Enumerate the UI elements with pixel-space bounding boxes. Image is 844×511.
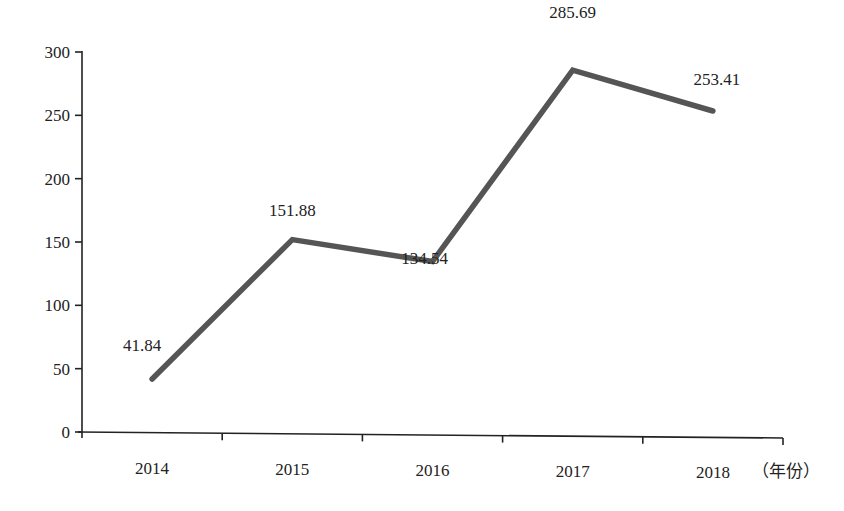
y-tick-label: 150 (45, 233, 71, 252)
data-labels: 41.84151.88134.54285.69253.41 (123, 3, 740, 355)
x-tick-label: 2017 (556, 462, 591, 481)
data-label: 253.41 (694, 70, 741, 89)
line-chart: 050100150200250300 20142015201620172018（… (0, 0, 844, 511)
data-label: 41.84 (123, 336, 162, 355)
y-tick-label: 100 (45, 296, 71, 315)
y-tick-label: 300 (45, 43, 71, 62)
chart-canvas: 050100150200250300 20142015201620172018（… (0, 0, 844, 511)
x-axis-unit-label: （年份） (752, 462, 820, 481)
y-tick-label: 0 (62, 423, 71, 442)
x-axis: 20142015201620172018（年份） (78, 432, 820, 482)
data-label: 285.69 (549, 3, 596, 22)
x-tick-label: 2014 (135, 459, 170, 478)
y-axis: 050100150200250300 (45, 43, 83, 442)
x-tick-label: 2015 (275, 460, 309, 479)
y-tick-label: 200 (45, 170, 71, 189)
data-label: 151.88 (269, 201, 316, 220)
y-tick-label: 50 (53, 360, 70, 379)
series-line (152, 70, 713, 379)
data-label: 134.54 (401, 249, 448, 268)
x-tick-label: 2016 (416, 461, 450, 480)
x-tick-label: 2018 (696, 463, 730, 482)
data-series (152, 70, 713, 379)
y-tick-label: 250 (45, 106, 71, 125)
